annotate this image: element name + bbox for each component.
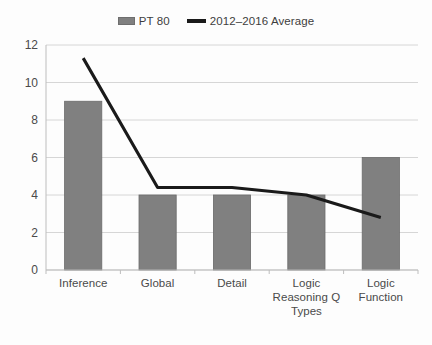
bar-2 bbox=[213, 195, 250, 270]
bar-series-pt80 bbox=[65, 101, 400, 270]
y-tick-label: 12 bbox=[8, 39, 38, 51]
x-axis: InferenceGlobalDetailLogicReasoning QTyp… bbox=[46, 276, 418, 338]
plot-area bbox=[46, 45, 418, 270]
legend-entry-average[interactable]: 2012–2016 Average bbox=[187, 15, 314, 27]
legend-label-pt80: PT 80 bbox=[139, 15, 170, 27]
line-swatch-icon bbox=[187, 19, 206, 23]
x-tick-label-4: LogicFunction bbox=[344, 276, 418, 338]
bar-swatch-icon bbox=[118, 17, 135, 25]
chart-legend: PT 80 2012–2016 Average bbox=[0, 13, 432, 29]
y-tick-label: 6 bbox=[8, 152, 38, 164]
legend-entry-pt80[interactable]: PT 80 bbox=[118, 15, 170, 27]
y-tick-label: 0 bbox=[8, 264, 38, 276]
y-axis: 121086420 bbox=[6, 45, 38, 270]
x-tick-label-0: Inference bbox=[46, 276, 120, 338]
y-tick-label: 8 bbox=[8, 114, 38, 126]
y-tick-label: 4 bbox=[8, 189, 38, 201]
x-tick-label-3: LogicReasoning QTypes bbox=[269, 276, 343, 338]
bar-1 bbox=[139, 195, 176, 270]
bar-3 bbox=[288, 195, 325, 270]
x-axis-ticks bbox=[46, 270, 418, 274]
bar-line-combo-chart: PT 80 2012–2016 Average 121086420 Infere… bbox=[0, 0, 432, 345]
legend-label-average: 2012–2016 Average bbox=[210, 15, 314, 27]
x-tick-label-1: Global bbox=[120, 276, 194, 338]
bar-0 bbox=[65, 101, 102, 270]
x-tick-label-2: Detail bbox=[195, 276, 269, 338]
plot-canvas bbox=[46, 45, 418, 270]
y-tick-label: 2 bbox=[8, 227, 38, 239]
y-tick-label: 10 bbox=[8, 77, 38, 89]
